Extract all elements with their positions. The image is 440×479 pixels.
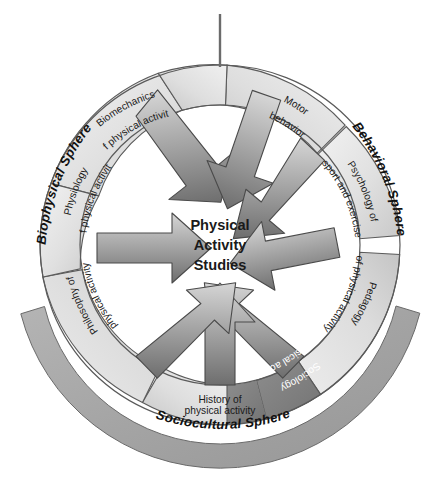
center-line-1: Physical xyxy=(190,217,249,233)
center-label-group: Physical Activity Studies xyxy=(190,217,249,273)
segment-label-history: History of xyxy=(198,394,241,405)
diagram-root: Biomechanics of physical activity Motor … xyxy=(0,0,440,479)
center-line-2: Activity xyxy=(194,237,248,253)
center-line-3: Studies xyxy=(194,257,247,273)
segment-label-history-2: physical activity xyxy=(185,405,257,416)
spheres-diagram-svg: Biomechanics of physical activity Motor … xyxy=(0,0,440,479)
